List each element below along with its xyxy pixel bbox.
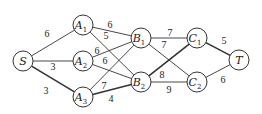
- edge-weight-label: 9: [167, 84, 172, 95]
- edge-s-a1: 6: [32, 28, 75, 56]
- edge-weight-label: 6: [221, 74, 226, 85]
- edge-weight-label: 3: [44, 85, 49, 96]
- node-c1: C1: [187, 28, 207, 48]
- edge-a1-b1: 6: [93, 19, 131, 36]
- edge-weight-label: 3: [51, 61, 56, 72]
- edge-c1-t: 5: [206, 35, 230, 55]
- node-b2: B2: [131, 72, 151, 92]
- edge-a2-b1: 6: [92, 42, 131, 58]
- edge-line: [206, 65, 230, 78]
- edge-b2-c1: 8: [149, 44, 189, 80]
- edge-weight-label: 8: [160, 69, 165, 80]
- edge-weight-label: 6: [45, 28, 50, 39]
- edge-weight-label: 6: [95, 45, 100, 56]
- edge-weight-label: 4: [109, 93, 114, 104]
- edge-line: [32, 30, 75, 56]
- edge-weight-label: 6: [108, 19, 113, 30]
- edge-b1-c1: 7: [151, 27, 187, 38]
- edge-c2-t: 6: [206, 65, 230, 85]
- node-a3: A3: [73, 87, 93, 107]
- edge-weight-label: 6: [103, 55, 108, 66]
- node-s: S: [13, 51, 33, 71]
- node-label: S: [19, 55, 27, 68]
- node-a2: A2: [73, 51, 93, 71]
- edge-a3-b2: 4: [93, 85, 132, 104]
- edge-weight-label: 5: [104, 30, 109, 41]
- node-c2: C2: [187, 72, 207, 92]
- edge-b2-c2: 9: [151, 82, 187, 95]
- edge-weight-label: 7: [168, 27, 173, 38]
- edge-weight-label: 7: [102, 80, 107, 91]
- edge-weight-label: 7: [162, 39, 167, 50]
- node-t: T: [229, 50, 249, 70]
- node-b1: B1: [131, 28, 151, 48]
- graph-diagram: 633656674778956 SA1A2A3B1B2C1C2T: [0, 0, 262, 114]
- node-a1: A1: [73, 15, 93, 35]
- edge-weight-label: 5: [222, 35, 227, 46]
